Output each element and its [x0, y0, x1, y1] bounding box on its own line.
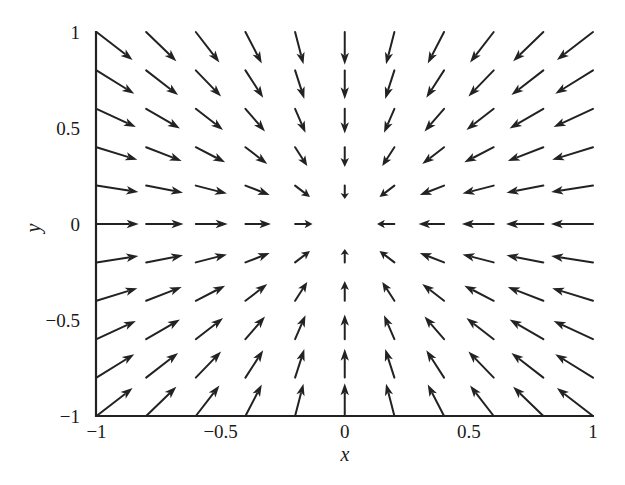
vector-arrow	[555, 354, 593, 377]
vector-arrow	[196, 147, 225, 162]
vector-arrow	[551, 220, 593, 228]
vector-arrow	[420, 253, 444, 262]
vector-arrow	[510, 320, 544, 340]
vector-arrow	[196, 109, 223, 130]
vector-arrow	[97, 321, 136, 339]
vector-arrow	[508, 287, 544, 301]
x-tick-label: 1	[588, 421, 598, 442]
vector-arrow	[382, 282, 394, 301]
vector-arrow	[97, 70, 135, 93]
arrowhead-icon	[555, 354, 567, 364]
vector-arrow	[551, 254, 593, 263]
vector-arrow	[97, 388, 133, 416]
x-tick-label: −0.5	[203, 421, 237, 442]
vector-arrow	[341, 281, 349, 301]
vector-arrow	[341, 315, 349, 340]
vector-arrow	[382, 147, 394, 166]
vector-arrow	[507, 253, 544, 262]
vector-arrow	[196, 186, 227, 195]
vector-arrow	[97, 354, 135, 377]
vector-arrow	[384, 109, 394, 133]
vector-arrow	[511, 70, 543, 95]
vector-arrow	[146, 70, 178, 95]
vector-arrow	[468, 351, 493, 377]
vector-arrow	[196, 318, 223, 339]
vector-arrow	[245, 253, 269, 262]
y-tick-labels: −1−0.500.51	[46, 22, 80, 427]
arrowhead-icon	[555, 84, 567, 94]
vector-arrow	[196, 220, 228, 228]
arrowhead-icon	[382, 282, 391, 293]
vector-arrow	[511, 353, 543, 378]
vector-arrow	[470, 32, 494, 62]
vector-arrow	[513, 387, 543, 416]
vector-arrow	[463, 253, 494, 262]
vector-arrow	[552, 147, 593, 160]
vector-arrow	[555, 70, 593, 93]
vector-arrow	[341, 70, 349, 99]
arrowhead-icon	[253, 350, 263, 362]
arrowhead-icon	[298, 282, 307, 293]
vector-arrow	[146, 353, 178, 378]
arrowhead-icon	[510, 320, 522, 330]
vector-arrow	[463, 186, 494, 195]
vector-arrow	[464, 147, 493, 162]
vector-arrow	[552, 288, 593, 301]
arrowhead-icon	[253, 85, 263, 97]
vector-arrow	[295, 220, 312, 228]
vector-arrow	[341, 186, 349, 199]
vector-arrow	[245, 109, 265, 132]
y-tick-label: 0.5	[56, 118, 80, 139]
x-tick-label: 0.5	[457, 421, 481, 442]
vector-arrow	[146, 109, 180, 129]
vector-arrow	[97, 32, 133, 60]
vector-arrow	[466, 318, 493, 339]
arrowhead-icon	[167, 320, 179, 330]
vector-arrow	[377, 220, 394, 228]
vector-arrow	[295, 315, 305, 339]
vector-arrow	[295, 282, 307, 301]
vector-arrow	[146, 253, 183, 262]
vector-arrow	[508, 147, 544, 161]
vector-arrow	[146, 32, 176, 61]
vector-arrow	[557, 32, 593, 60]
vector-arrow	[554, 109, 593, 127]
arrowhead-icon	[426, 85, 436, 97]
vector-arrow	[428, 32, 444, 64]
vector-arrow	[196, 386, 220, 416]
x-tick-label: 0	[340, 421, 350, 442]
arrowhead-icon	[426, 350, 436, 362]
vector-arrow	[196, 253, 227, 262]
arrowhead-icon	[122, 354, 134, 364]
vector-arrow	[384, 315, 394, 339]
y-tick-label: −0.5	[46, 310, 80, 331]
vector-arrow	[295, 109, 305, 133]
arrowhead-icon	[298, 155, 307, 166]
y-tick-label: −1	[60, 406, 80, 427]
vector-arrow	[196, 286, 225, 301]
vector-arrow	[422, 147, 444, 164]
vector-arrow	[196, 32, 220, 62]
vector-arrow	[385, 32, 394, 64]
vector-arrow	[146, 220, 183, 228]
vector-arrow	[341, 32, 349, 65]
vector-arrow	[341, 147, 349, 167]
vector-arrow	[341, 249, 349, 262]
arrowhead-icon	[167, 119, 179, 129]
x-axis-title: x	[340, 443, 350, 465]
vector-arrow	[97, 109, 136, 127]
y-tick-label: 0	[71, 214, 81, 235]
vector-arrow	[380, 186, 395, 198]
vector-arrow	[295, 384, 304, 416]
arrowhead-icon	[510, 119, 522, 129]
vector-arrow	[245, 284, 267, 301]
vector-arrows	[97, 32, 594, 416]
vector-arrow	[146, 186, 183, 195]
vector-arrow	[341, 109, 349, 134]
vector-arrow	[295, 349, 305, 377]
arrowhead-icon	[382, 155, 391, 166]
vector-arrow	[419, 220, 444, 228]
vector-arrow	[428, 384, 444, 416]
y-axis-title: y	[22, 223, 45, 234]
vector-arrow	[245, 70, 263, 97]
